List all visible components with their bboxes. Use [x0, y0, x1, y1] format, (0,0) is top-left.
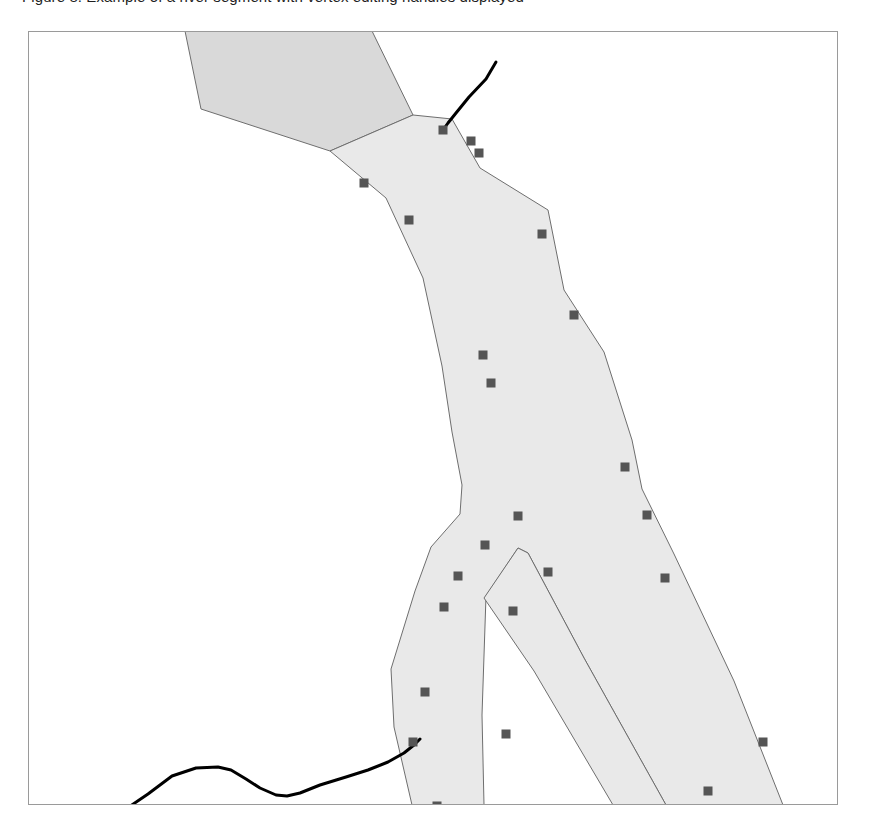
- vertex-09[interactable]: [487, 379, 496, 388]
- vertex-17[interactable]: [440, 603, 449, 612]
- vertex-11[interactable]: [514, 512, 523, 521]
- vertex-04[interactable]: [475, 149, 484, 158]
- vertex-16[interactable]: [661, 574, 670, 583]
- vertex-08[interactable]: [479, 351, 488, 360]
- vertex-10[interactable]: [621, 463, 630, 472]
- vertex-12[interactable]: [643, 511, 652, 520]
- map-canvas-frame[interactable]: [28, 31, 838, 805]
- vertex-20[interactable]: [409, 738, 418, 747]
- figure-caption-text: Figure 8. Example of a river segment wit…: [22, 0, 524, 4]
- vertex-21[interactable]: [502, 730, 511, 739]
- vertex-02[interactable]: [439, 126, 448, 135]
- vertex-24[interactable]: [704, 787, 713, 796]
- vertex-06[interactable]: [538, 230, 547, 239]
- map-vector-layer[interactable]: [28, 31, 838, 805]
- figure-caption-strip: Figure 8. Example of a river segment wit…: [0, 0, 871, 14]
- vertex-15[interactable]: [544, 568, 553, 577]
- vertex-18[interactable]: [509, 607, 518, 616]
- stream-line-top[interactable]: [443, 62, 496, 130]
- vertex-05[interactable]: [405, 216, 414, 225]
- vertex-23[interactable]: [433, 802, 442, 806]
- polygon-feature-group: [185, 31, 783, 805]
- vertex-19[interactable]: [421, 688, 430, 697]
- vertex-03[interactable]: [467, 137, 476, 146]
- stream-line-bottom[interactable]: [86, 739, 420, 805]
- vertex-14[interactable]: [454, 572, 463, 581]
- vertex-13[interactable]: [481, 541, 490, 550]
- vertex-22[interactable]: [759, 738, 768, 747]
- vertex-01[interactable]: [360, 179, 369, 188]
- vertex-07[interactable]: [570, 311, 579, 320]
